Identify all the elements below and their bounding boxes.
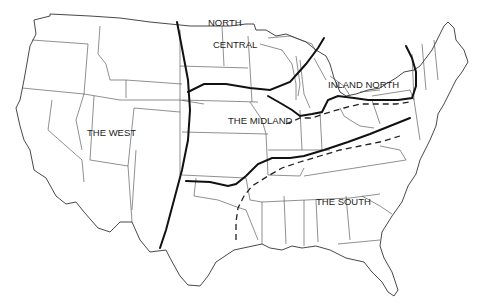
us-outline: [16, 14, 468, 296]
region-label-north: NORTH: [208, 17, 242, 28]
region-label-the-west: THE WEST: [87, 127, 136, 138]
region-label-the-south: THE SOUTH: [316, 196, 371, 207]
region-label-central: CENTRAL: [213, 39, 257, 50]
region-label-the-midland: THE MIDLAND: [228, 115, 292, 126]
region-label-inland-north: INLAND NORTH: [328, 79, 399, 90]
midland-dashed-north-line: [286, 102, 410, 124]
west-boundary-line: [160, 22, 190, 248]
